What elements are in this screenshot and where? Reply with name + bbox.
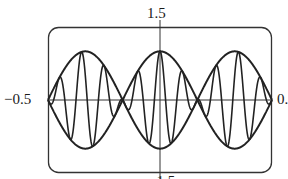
plot-area [0, 0, 288, 179]
